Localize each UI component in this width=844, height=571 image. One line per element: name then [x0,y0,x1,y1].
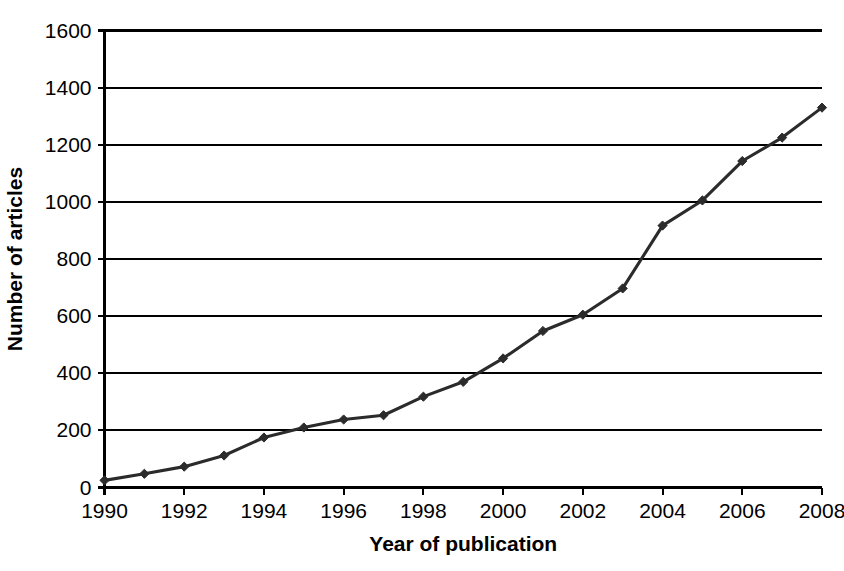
x-tick-label-2000: 2000 [480,499,527,522]
y-tick-label-0: 0 [80,476,92,499]
y-tick-label-1600: 1600 [45,19,92,42]
y-tick-label-1400: 1400 [45,76,92,99]
y-tick-label-800: 800 [56,247,91,270]
y-tick-label-200: 200 [56,418,91,441]
x-tick-label-1996: 1996 [320,499,367,522]
x-tick-label-1992: 1992 [161,499,208,522]
x-tick-label-2008: 2008 [799,499,844,522]
x-tick-label-1990: 1990 [81,499,128,522]
chart-container: 02004006008001000120014001600 1990199219… [0,0,844,571]
y-tick-label-1200: 1200 [45,133,92,156]
x-tick-label-1994: 1994 [241,499,288,522]
y-tick-label-600: 600 [56,304,91,327]
x-tick-label-1998: 1998 [400,499,447,522]
x-axis-title: Year of publication [369,532,557,555]
y-tick-label-1000: 1000 [45,190,92,213]
chart-background [0,0,844,571]
line-chart: 02004006008001000120014001600 1990199219… [0,0,844,571]
x-tick-label-2006: 2006 [719,499,766,522]
x-tick-label-2002: 2002 [559,499,606,522]
y-tick-label-400: 400 [56,361,91,384]
y-axis-title: Number of articles [3,167,26,351]
x-tick-label-2004: 2004 [639,499,686,522]
